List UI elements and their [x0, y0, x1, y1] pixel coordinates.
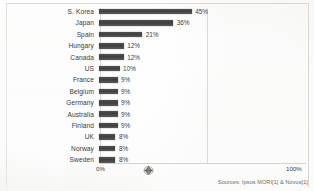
bar: [99, 43, 124, 49]
category-label: Norway: [0, 143, 99, 154]
category-label: Canada: [0, 52, 99, 63]
bar-row: S. Korea45%: [0, 6, 314, 17]
bar-track: 9%: [99, 109, 305, 120]
category-label: UK: [0, 131, 99, 142]
bar: [99, 100, 118, 106]
bar-track: 21%: [99, 29, 305, 40]
bar: [99, 54, 124, 60]
bar-value-label: 9%: [121, 109, 130, 120]
bar-track: 12%: [99, 40, 305, 51]
x-axis-tick-max: 100%: [286, 165, 302, 172]
bar-track: 10%: [99, 63, 305, 74]
bar-track: 8%: [99, 131, 305, 142]
bar-row: Australia9%: [0, 109, 314, 120]
bar-row: Japan36%: [0, 17, 314, 28]
category-label: Spain: [0, 29, 99, 40]
category-label: Germany: [0, 97, 99, 108]
x-axis-tick-min: 0%: [96, 165, 105, 172]
bar-value-label: 9%: [121, 74, 130, 85]
bar-track: 12%: [99, 52, 305, 63]
bar-row: Germany9%: [0, 97, 314, 108]
x-axis-line: [100, 163, 306, 164]
bar-value-label: 9%: [121, 97, 130, 108]
bar: [99, 20, 173, 26]
bar: [99, 89, 118, 95]
bar-track: 9%: [99, 74, 305, 85]
bar-value-label: 45%: [195, 6, 208, 17]
bar-value-label: 8%: [119, 143, 128, 154]
category-label: Belgium: [0, 86, 99, 97]
category-label: S. Korea: [0, 6, 99, 17]
bar-value-label: 10%: [123, 63, 136, 74]
bar-row: Canada12%: [0, 52, 314, 63]
bar: [99, 77, 118, 83]
category-label: Finland: [0, 120, 99, 131]
bar: [99, 134, 115, 140]
bar: [99, 66, 120, 72]
category-label: Japan: [0, 17, 99, 28]
bar-chart: S. Korea45%Japan36%Spain21%Hungary12%Can…: [0, 0, 314, 191]
source-note: Sources: Ipsos MORI[1] & Novus[1]: [218, 179, 308, 185]
bar-value-label: 9%: [121, 120, 130, 131]
category-label: Sweden: [0, 154, 99, 165]
bar: [99, 157, 115, 163]
category-label: Hungary: [0, 40, 99, 51]
bar-rows: S. Korea45%Japan36%Spain21%Hungary12%Can…: [0, 6, 314, 165]
bar-row: US10%: [0, 63, 314, 74]
bar-row: France9%: [0, 74, 314, 85]
bar-value-label: 12%: [127, 40, 140, 51]
category-label: France: [0, 74, 99, 85]
bar-track: 9%: [99, 120, 305, 131]
bar-track: 9%: [99, 86, 305, 97]
bar: [99, 123, 118, 129]
category-label: Australia: [0, 109, 99, 120]
bar-row: Hungary12%: [0, 40, 314, 51]
bar-track: 9%: [99, 97, 305, 108]
bar: [99, 9, 192, 15]
category-label: US: [0, 63, 99, 74]
bar-value-label: 12%: [127, 52, 140, 63]
bar-track: 45%: [99, 6, 305, 17]
bar-track: 36%: [99, 17, 305, 28]
bar: [99, 111, 118, 117]
bar-row: Norway8%: [0, 143, 314, 154]
bar-row: Spain21%: [0, 29, 314, 40]
bar-value-label: 8%: [119, 131, 128, 142]
bar-value-label: 9%: [121, 86, 130, 97]
bar-track: 8%: [99, 143, 305, 154]
diamond-logo-icon: [141, 164, 156, 177]
bar: [99, 32, 142, 38]
bar-row: Finland9%: [0, 120, 314, 131]
bar-value-label: 36%: [177, 17, 190, 28]
bar: [99, 146, 115, 152]
bar-row: Belgium9%: [0, 86, 314, 97]
bar-value-label: 21%: [146, 29, 159, 40]
bar-row: UK8%: [0, 131, 314, 142]
